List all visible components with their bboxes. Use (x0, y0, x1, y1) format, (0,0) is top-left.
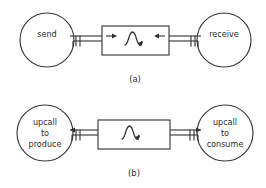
panel-b: upcall to produce upcall to consume (17, 105, 253, 178)
upcall-consume-label-line2: to (221, 128, 229, 138)
channel-box-a (102, 26, 169, 55)
upcall-produce-label-line2: to (41, 128, 49, 138)
upcall-consume-label-line3: consume (207, 139, 244, 149)
upcall-consume-label-line1: upcall (213, 117, 237, 127)
receive-node-circle (197, 13, 251, 67)
receive-node-label: receive (209, 29, 239, 39)
upcall-produce-label-line1: upcall (33, 117, 57, 127)
panel-a-caption: (a) (129, 74, 141, 84)
panel-a: send receive (20, 13, 251, 84)
upcall-produce-label-line3: produce (29, 139, 62, 149)
figure-container: send receive (0, 0, 266, 188)
send-node-label: send (37, 29, 56, 39)
panel-b-caption: (b) (128, 168, 140, 178)
send-node-circle (20, 13, 74, 67)
protocol-channel-diagram: send receive (0, 0, 266, 188)
